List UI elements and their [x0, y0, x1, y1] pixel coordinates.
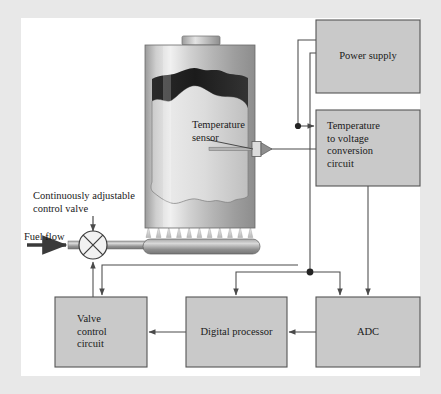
figure-root: Power supply Temperature to voltage conv… [0, 0, 441, 394]
block-digital-processor[interactable] [186, 297, 287, 367]
label-control-valve: Continuously adjustable control valve [33, 190, 183, 215]
burner-flames [146, 227, 253, 238]
wire-bus-to-valve-ctrl [102, 265, 298, 295]
label-temperature-sensor: Temperature sensor [192, 119, 274, 144]
wire-bus-to-processor [236, 272, 310, 295]
junction-dot-upper [295, 123, 301, 129]
tank-cap [182, 36, 220, 45]
junction-dot-lower [307, 269, 314, 276]
block-valve-control-circuit[interactable] [55, 297, 147, 367]
block-power-supply[interactable] [316, 20, 420, 93]
wire-power-bus-down [310, 53, 316, 272]
wire-bus-to-adc [310, 272, 340, 295]
label-fuel-flow: Fuel flow [24, 231, 84, 244]
burner-tube [143, 239, 260, 254]
block-adc[interactable] [316, 297, 420, 367]
block-temperature-to-voltage[interactable] [316, 110, 420, 186]
